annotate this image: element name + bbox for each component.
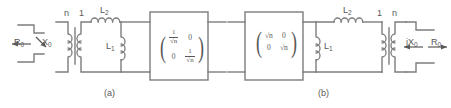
panel-b-input-terminals (228, 22, 245, 72)
panel-b-turns-n-label: n (392, 9, 397, 18)
panel-b-transformer-primary-coil (382, 22, 386, 72)
panel-a-output-terminals (208, 22, 226, 72)
matrix-a-cell-00: 1 √n (169, 29, 178, 45)
matrix-a-cell-11: 1 √n (185, 48, 194, 64)
panel-a-L2-label: L2 (100, 6, 109, 15)
panel-b-matrix-content: ( √n 0 0 √n ) (254, 31, 299, 53)
panel-b-caption: (b) (318, 88, 329, 98)
matrix-b-left-paren: ( (256, 31, 262, 53)
panel-a-turns-1-label: 1 (79, 9, 84, 18)
matrix-b-cell-01: 0 (282, 31, 286, 40)
panel-b-jX0-label: jX0 (406, 38, 418, 47)
panel-b-L1-label: L1 (324, 42, 333, 51)
panel-a-turns-n-label: n (64, 9, 69, 18)
matrix-b-cell-10: 0 (267, 43, 271, 52)
matrix-a-cell-10: 0 (172, 52, 176, 61)
matrix-b-cell-00: √n (265, 31, 273, 40)
panel-a-shunt-inductor-L1 (121, 22, 125, 72)
panel-b-L2-label: L2 (343, 6, 352, 15)
panel-b-turns-1-label: 1 (377, 9, 382, 18)
panel-b-mid-wires (303, 22, 382, 72)
matrix-b-right-paren: ) (291, 31, 297, 53)
matrix-a-left-paren: ( (160, 36, 166, 58)
panel-a-input-wires (56, 22, 68, 72)
panel-b-series-inductor-L2 (334, 18, 382, 22)
panel-a-R0-label: R0 (14, 38, 24, 47)
panel-b-transformer-secondary-coil (391, 22, 406, 72)
panel-a-transformer-secondary-coil (77, 34, 81, 57)
matrix-a-cell-01: 0 (188, 33, 192, 42)
panel-b-shunt-inductor-L1 (316, 22, 320, 72)
panel-a-L1-label: L1 (106, 42, 115, 51)
panel-a-X0-label: X0 (42, 38, 52, 47)
panel-a-transformer-primary-coil (68, 34, 72, 57)
panel-a-matrix-content: ( 1 √n 0 0 1 √n ) (158, 29, 206, 64)
panel-a-caption: (a) (104, 88, 115, 98)
panel-a-secondary-rails (81, 22, 150, 72)
matrix-b-cell-11: √n (280, 43, 288, 52)
matrix-a-right-paren: ) (198, 36, 204, 58)
circuit-figure: R0 X0 n 1 L2 L1 ( 1 √n 0 0 1 √n ) (a) (0, 0, 451, 108)
panel-b-R0-label: R0 (431, 38, 441, 47)
